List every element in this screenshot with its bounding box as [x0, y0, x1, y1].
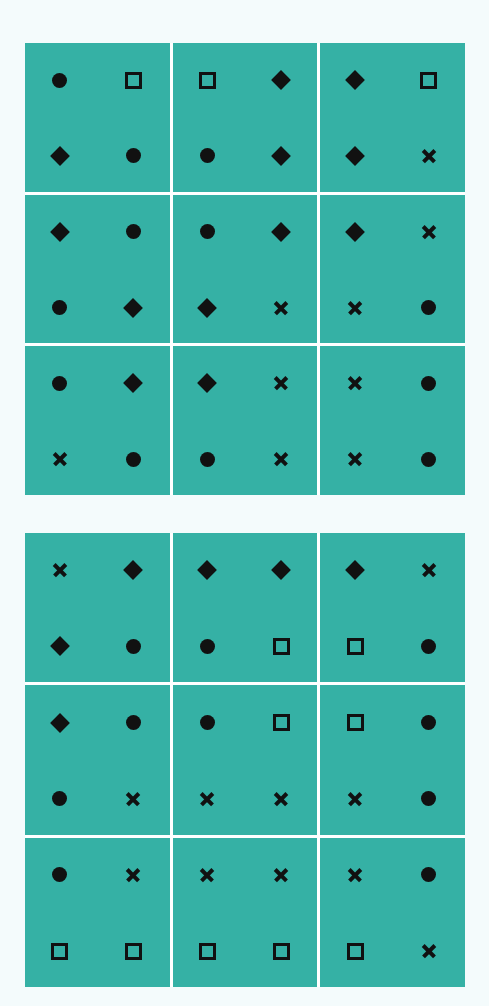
grid-cell — [25, 838, 170, 987]
diamond-icon — [124, 299, 142, 317]
grid-cell — [320, 685, 465, 834]
circle-icon — [198, 637, 216, 655]
grid-cell — [173, 685, 318, 834]
circle-icon — [51, 790, 69, 808]
square-icon — [198, 942, 216, 960]
square-icon — [272, 942, 290, 960]
circle-icon — [51, 866, 69, 884]
cross-icon — [272, 299, 290, 317]
diamond-icon — [51, 223, 69, 241]
circle-icon — [198, 223, 216, 241]
grid-cell — [320, 346, 465, 495]
grid-cell — [173, 533, 318, 682]
diamond-icon — [346, 147, 364, 165]
circle-icon — [124, 714, 142, 732]
cross-icon — [346, 866, 364, 884]
square-icon — [346, 637, 364, 655]
square-icon — [420, 71, 438, 89]
circle-icon — [51, 374, 69, 392]
circle-icon — [124, 450, 142, 468]
cross-icon — [51, 450, 69, 468]
cross-icon — [420, 942, 438, 960]
circle-icon — [420, 866, 438, 884]
grid-cell — [320, 533, 465, 682]
bottom-grid — [25, 533, 465, 987]
circle-icon — [124, 147, 142, 165]
cross-icon — [272, 866, 290, 884]
diamond-icon — [51, 637, 69, 655]
grid-cell — [25, 533, 170, 682]
circle-icon — [198, 147, 216, 165]
diamond-icon — [346, 561, 364, 579]
grid-cell — [25, 346, 170, 495]
cross-icon — [420, 223, 438, 241]
cross-icon — [124, 866, 142, 884]
diamond-icon — [272, 561, 290, 579]
cross-icon — [420, 561, 438, 579]
square-icon — [198, 71, 216, 89]
square-icon — [346, 942, 364, 960]
cross-icon — [124, 790, 142, 808]
square-icon — [124, 71, 142, 89]
circle-icon — [51, 71, 69, 89]
grid-cell — [173, 346, 318, 495]
cross-icon — [346, 790, 364, 808]
cross-icon — [420, 147, 438, 165]
grid-cell — [320, 43, 465, 192]
diamond-icon — [272, 147, 290, 165]
cross-icon — [346, 299, 364, 317]
diamond-icon — [272, 71, 290, 89]
diamond-icon — [124, 374, 142, 392]
circle-icon — [420, 637, 438, 655]
top-grid — [25, 43, 465, 495]
circle-icon — [124, 223, 142, 241]
grid-cell — [320, 838, 465, 987]
square-icon — [272, 637, 290, 655]
cross-icon — [198, 866, 216, 884]
cross-icon — [272, 374, 290, 392]
square-icon — [124, 942, 142, 960]
cross-icon — [272, 790, 290, 808]
circle-icon — [124, 637, 142, 655]
diamond-icon — [51, 714, 69, 732]
diamond-icon — [346, 71, 364, 89]
circle-icon — [198, 714, 216, 732]
grid-cell — [25, 43, 170, 192]
diamond-icon — [198, 374, 216, 392]
cross-icon — [346, 450, 364, 468]
circle-icon — [420, 299, 438, 317]
diamond-icon — [198, 299, 216, 317]
grid-cell — [320, 195, 465, 344]
diamond-icon — [346, 223, 364, 241]
diamond-icon — [51, 147, 69, 165]
square-icon — [346, 714, 364, 732]
diamond-icon — [124, 561, 142, 579]
cross-icon — [51, 561, 69, 579]
cross-icon — [198, 790, 216, 808]
square-icon — [272, 714, 290, 732]
circle-icon — [420, 714, 438, 732]
grid-cell — [25, 195, 170, 344]
cross-icon — [272, 450, 290, 468]
circle-icon — [420, 790, 438, 808]
diamond-icon — [272, 223, 290, 241]
cross-icon — [346, 374, 364, 392]
circle-icon — [420, 374, 438, 392]
grid-cell — [173, 838, 318, 987]
grid-cell — [173, 43, 318, 192]
square-icon — [51, 942, 69, 960]
grid-cell — [173, 195, 318, 344]
circle-icon — [198, 450, 216, 468]
circle-icon — [51, 299, 69, 317]
grid-cell — [25, 685, 170, 834]
circle-icon — [420, 450, 438, 468]
diamond-icon — [198, 561, 216, 579]
